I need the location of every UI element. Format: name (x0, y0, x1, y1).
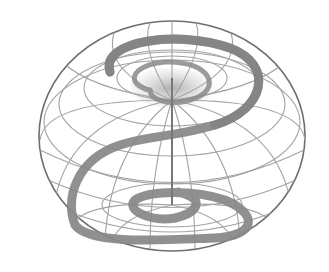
diagram-canvas (0, 0, 329, 272)
sphere-spiral-diagram (0, 0, 329, 272)
